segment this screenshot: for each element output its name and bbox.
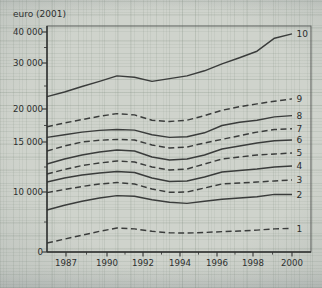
y-tick-label: 20 000 [13,104,43,114]
series-label-10: 10 [297,29,309,39]
x-tick-label: 1998 [242,258,264,268]
series-label-9: 9 [297,94,303,104]
series-line-5 [47,153,292,174]
series-label-3: 3 [297,175,303,185]
line-chart-svg: 40 00030 00020 00015 00010 0000198719901… [0,0,322,288]
series-line-10 [47,34,292,97]
chart: euro (2001) 40 00030 00020 00015 00010 0… [0,0,322,288]
series-line-6 [47,140,292,164]
series-label-6: 6 [297,135,303,145]
series-label-4: 4 [297,161,303,171]
x-tick-label: 1992 [132,258,154,268]
plot-border [47,26,311,252]
x-tick-label: 1996 [206,258,228,268]
series-line-9 [47,99,292,127]
series-line-1 [47,228,292,243]
series-label-2: 2 [297,190,303,200]
series-line-2 [47,194,292,210]
series-label-5: 5 [297,148,303,158]
series-label-7: 7 [297,124,303,134]
x-tick-label: 1994 [169,258,191,268]
y-tick-label: 0 [38,247,43,257]
x-tick-label: 1990 [96,258,118,268]
series-label-1: 1 [297,224,303,234]
series-line-8 [47,116,292,138]
y-tick-label: 15 000 [13,137,43,147]
series-line-4 [47,166,292,182]
series-label-8: 8 [297,111,303,121]
y-tick-label: 40 000 [13,27,43,37]
x-tick-label: 1987 [55,258,77,268]
y-tick-label: 30 000 [13,58,43,68]
x-tick-label: 2000 [281,258,303,268]
y-tick-label: 10 000 [13,187,43,197]
